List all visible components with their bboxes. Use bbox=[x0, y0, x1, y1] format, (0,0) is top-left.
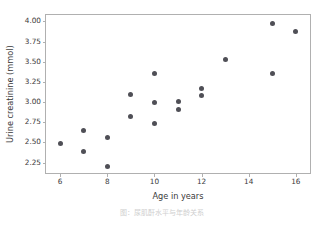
x-axis-tick-label: 12 bbox=[197, 178, 206, 185]
y-axis-tick-label: 3.50 bbox=[25, 58, 41, 65]
x-axis-tick-mark bbox=[107, 173, 108, 177]
x-axis-tick-mark bbox=[296, 173, 297, 177]
y-axis-tick-mark bbox=[43, 21, 47, 22]
scatter-point bbox=[199, 93, 204, 98]
y-axis-tick-label: 3.25 bbox=[25, 78, 41, 85]
scatter-point bbox=[176, 107, 181, 112]
x-axis-tick-mark bbox=[249, 173, 250, 177]
scatter-plot-figure: Urine creatinine (mmol) 2.252.502.753.00… bbox=[0, 0, 324, 226]
y-axis-tick-mark bbox=[43, 142, 47, 143]
y-axis-tick-mark bbox=[43, 82, 47, 83]
plot-data-area bbox=[46, 15, 310, 173]
x-axis-label: Age in years bbox=[45, 192, 311, 200]
y-axis-label: Urine creatinine (mmol) bbox=[4, 14, 16, 174]
scatter-point bbox=[176, 99, 181, 104]
x-axis-tick-label: 14 bbox=[244, 178, 253, 185]
scatter-point bbox=[105, 164, 110, 169]
y-axis-tick-mark bbox=[43, 122, 47, 123]
y-axis-label-text: Urine creatinine (mmol) bbox=[6, 45, 14, 143]
scatter-point bbox=[270, 71, 275, 76]
scatter-point bbox=[270, 21, 275, 26]
x-axis-tick-mark bbox=[154, 173, 155, 177]
y-axis-tick-label: 2.50 bbox=[25, 139, 41, 146]
scatter-point bbox=[81, 128, 86, 133]
scatter-point bbox=[58, 141, 63, 146]
y-axis-tick-label: 4.00 bbox=[25, 18, 41, 25]
x-axis-tick-mark bbox=[202, 173, 203, 177]
scatter-point bbox=[152, 121, 157, 126]
x-axis-tick-label: 16 bbox=[291, 178, 300, 185]
figure-caption: 图：尿肌酐水平与年龄关系 bbox=[0, 210, 324, 217]
scatter-point bbox=[223, 57, 228, 62]
y-axis-tick-label: 3.75 bbox=[25, 38, 41, 45]
scatter-point bbox=[128, 92, 133, 97]
y-axis-tick-mark bbox=[43, 102, 47, 103]
x-axis-tick-label: 10 bbox=[150, 178, 159, 185]
y-axis-tick-label: 2.25 bbox=[25, 159, 41, 166]
scatter-point bbox=[128, 114, 133, 119]
x-axis-tick-mark bbox=[60, 173, 61, 177]
y-axis-tick-mark bbox=[43, 62, 47, 63]
y-axis-tick-mark bbox=[43, 42, 47, 43]
scatter-point bbox=[199, 86, 204, 91]
scatter-point bbox=[81, 149, 86, 154]
x-axis-tick-label: 8 bbox=[105, 178, 110, 185]
plot-axes: 2.252.502.753.003.253.503.754.0068101214… bbox=[45, 14, 311, 174]
y-axis-tick-label: 2.75 bbox=[25, 119, 41, 126]
scatter-point bbox=[152, 100, 157, 105]
scatter-point bbox=[152, 71, 157, 76]
y-axis-tick-label: 3.00 bbox=[25, 98, 41, 105]
x-axis-tick-label: 6 bbox=[58, 178, 63, 185]
scatter-point bbox=[105, 135, 110, 140]
scatter-point bbox=[293, 29, 298, 34]
y-axis-tick-mark bbox=[43, 163, 47, 164]
